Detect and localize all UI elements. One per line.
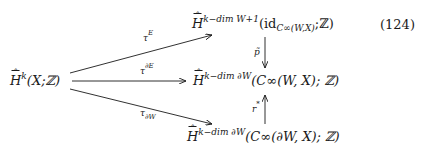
arguments-close: ;ℤ) — [315, 16, 334, 31]
degree: k−dim ∂W — [204, 71, 251, 81]
degree: k−dim W+1 — [203, 14, 259, 24]
label-p-tilde: p̃ — [254, 47, 260, 57]
label-tau-partial-W: τ∂W — [140, 108, 156, 118]
arguments-open: (id — [259, 16, 277, 31]
hat-H: ˆH — [193, 74, 204, 87]
arguments: (C∞(W, X); ℤ) — [251, 73, 339, 88]
middle-node: ˆHk−dim ∂W(C∞(W, X); ℤ) — [193, 74, 339, 87]
arrow-tau-partial-W — [70, 89, 212, 124]
arguments: (X;ℤ) — [27, 73, 60, 88]
equation-number: (124) — [380, 17, 415, 32]
hat-H: ˆH — [187, 130, 198, 143]
hat-H: ˆH — [192, 17, 203, 30]
label-r-star: r* — [252, 104, 260, 114]
label-tau-partial-E: τ∂E — [140, 66, 154, 76]
top-node: ˆHk−dim W+1(idC∞(W,X);ℤ) — [192, 17, 334, 30]
arguments: (C∞(∂W, X); ℤ) — [245, 129, 339, 144]
subscript: C∞(W,X) — [276, 23, 314, 33]
label-tau-E: τE — [143, 33, 153, 43]
hat-H: ˆH — [10, 74, 21, 87]
source-node: ˆHk(X;ℤ) — [10, 74, 60, 87]
degree: k−dim ∂W — [198, 127, 245, 137]
bottom-node: ˆHk−dim ∂W(C∞(∂W, X); ℤ) — [187, 130, 340, 143]
